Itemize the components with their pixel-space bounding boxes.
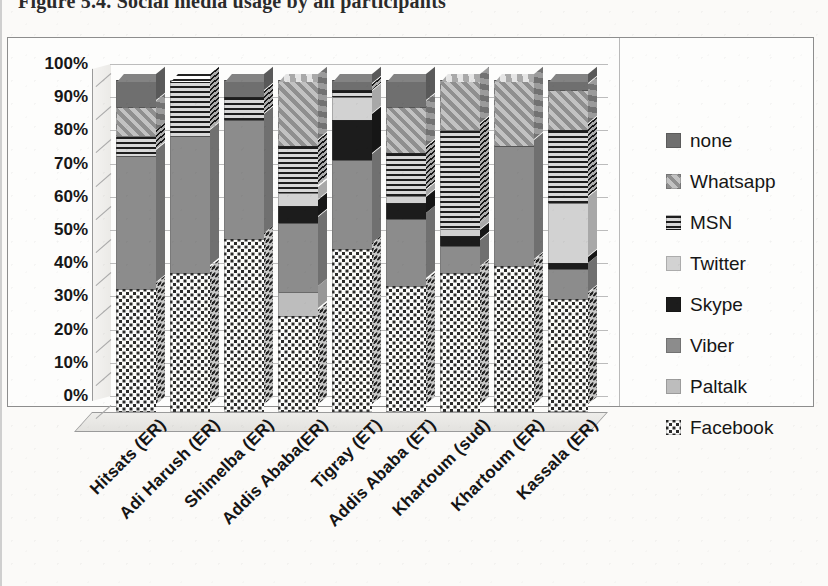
y-axis-tick: 0% — [28, 387, 88, 404]
bar-segment-facebook[interactable] — [440, 273, 480, 412]
legend-item-whatsapp[interactable]: Whatsapp — [666, 161, 816, 202]
legend-swatch-icon — [666, 133, 681, 148]
bar-segment-facebook[interactable] — [494, 266, 534, 412]
bar-segment-viber[interactable] — [224, 120, 264, 240]
bar-segment-viber[interactable] — [332, 160, 372, 250]
plot-area — [110, 64, 608, 412]
bar-segment-msn[interactable] — [116, 136, 156, 156]
stacked-bar[interactable] — [386, 80, 426, 412]
bar-segment-msn[interactable] — [332, 90, 372, 97]
y-axis-tick: 20% — [28, 321, 88, 338]
bar-segment-msn[interactable] — [440, 130, 480, 230]
x-axis-label: Khartoum (sud) — [389, 415, 495, 521]
bar-segment-viber[interactable] — [170, 136, 210, 272]
bar-segment-whatsapp[interactable] — [440, 80, 480, 130]
figure-caption: Figure 5.4. Social media usage by all pa… — [18, 0, 446, 13]
y-axis-tick: 80% — [28, 121, 88, 138]
legend-item-twitter[interactable]: Twitter — [666, 243, 816, 284]
bar-segment-facebook[interactable] — [170, 273, 210, 412]
y-axis-tick: 10% — [28, 354, 88, 371]
legend-item-paltalk[interactable]: Paltalk — [666, 366, 816, 407]
bar-segment-facebook[interactable] — [278, 316, 318, 412]
y-axis-tick: 40% — [28, 254, 88, 271]
bar-segment-none[interactable] — [116, 80, 156, 107]
bar-segment-facebook[interactable] — [116, 289, 156, 412]
bar-segment-whatsapp[interactable] — [278, 80, 318, 146]
stacked-bar[interactable] — [224, 80, 264, 412]
page-edge — [0, 0, 2, 586]
stacked-bar[interactable] — [494, 80, 534, 412]
bar-segment-twitter[interactable] — [440, 229, 480, 236]
y-axis-tick: 50% — [28, 221, 88, 238]
bar-segment-msn[interactable] — [278, 146, 318, 192]
stacked-bar[interactable] — [440, 80, 480, 412]
bar-segment-none[interactable] — [224, 80, 264, 97]
bar-segment-facebook[interactable] — [548, 299, 588, 412]
stacked-bar[interactable] — [170, 80, 210, 412]
bar-segment-skype[interactable] — [278, 206, 318, 223]
y-axis-tick: 70% — [28, 155, 88, 172]
bar-segment-none[interactable] — [332, 80, 372, 90]
legend-label: Paltalk — [690, 377, 747, 396]
legend-label: none — [690, 131, 732, 150]
legend-label: Viber — [690, 336, 734, 355]
legend-swatch-icon — [666, 379, 681, 394]
bar-segment-skype[interactable] — [332, 120, 372, 160]
bar-segment-viber[interactable] — [548, 269, 588, 299]
x-axis-label: Khartoum (ER) — [447, 415, 548, 516]
bar-segment-viber[interactable] — [440, 246, 480, 273]
legend-label: Facebook — [690, 418, 773, 437]
legend-swatch-icon — [666, 215, 681, 230]
legend-item-facebook[interactable]: Facebook — [666, 407, 816, 448]
bar-segment-viber[interactable] — [386, 219, 426, 285]
bar-segment-whatsapp[interactable] — [116, 107, 156, 137]
bar-segment-whatsapp[interactable] — [494, 80, 534, 146]
x-axis-labels: Hitsats (ER)Adi Harush (ER)Shimelba (ER)… — [110, 415, 630, 585]
bar-segment-facebook[interactable] — [386, 286, 426, 412]
y-axis-tick: 100% — [28, 55, 88, 72]
y-axis-tick: 60% — [28, 188, 88, 205]
gridline — [110, 64, 608, 65]
y-axis-tick: 90% — [28, 88, 88, 105]
bar-segment-skype[interactable] — [386, 203, 426, 220]
legend-item-none[interactable]: none — [666, 120, 816, 161]
bar-segment-facebook[interactable] — [224, 239, 264, 412]
legend-divider — [619, 38, 620, 406]
y-axis-tick: 30% — [28, 287, 88, 304]
bar-segment-viber[interactable] — [116, 156, 156, 289]
bar-segment-viber[interactable] — [278, 223, 318, 293]
bar-segment-msn[interactable] — [170, 80, 210, 136]
legend-label: Whatsapp — [690, 172, 776, 191]
bar-segment-skype[interactable] — [440, 236, 480, 246]
bar-segment-twitter[interactable] — [332, 97, 372, 120]
bar-segment-skype[interactable] — [548, 263, 588, 270]
bar-segment-none[interactable] — [548, 80, 588, 90]
bar-segment-twitter[interactable] — [548, 203, 588, 263]
bar-segment-whatsapp[interactable] — [386, 107, 426, 153]
bar-segment-viber[interactable] — [494, 146, 534, 266]
stacked-bar[interactable] — [278, 80, 318, 412]
legend-label: Twitter — [690, 254, 746, 273]
bar-segment-twitter[interactable] — [278, 193, 318, 206]
bar-segment-facebook[interactable] — [332, 249, 372, 412]
legend-swatch-icon — [666, 420, 681, 435]
bar-segment-msn[interactable] — [386, 153, 426, 196]
bar-segment-whatsapp[interactable] — [548, 90, 588, 130]
legend-label: Skype — [690, 295, 743, 314]
legend-swatch-icon — [666, 297, 681, 312]
bar-segment-msn[interactable] — [224, 97, 264, 120]
bar-segment-paltalk[interactable] — [278, 292, 318, 315]
bar-segment-twitter[interactable] — [386, 196, 426, 203]
y-axis: 100%90%80%70%60%50%40%30%20%10%0% — [26, 64, 88, 412]
legend-swatch-icon — [666, 174, 681, 189]
legend-item-viber[interactable]: Viber — [666, 325, 816, 366]
bar-segment-none[interactable] — [386, 80, 426, 107]
legend-item-msn[interactable]: MSN — [666, 202, 816, 243]
legend-item-skype[interactable]: Skype — [666, 284, 816, 325]
legend-swatch-icon — [666, 338, 681, 353]
legend-swatch-icon — [666, 256, 681, 271]
stacked-bar[interactable] — [116, 80, 156, 412]
stacked-bar[interactable] — [548, 80, 588, 412]
bar-segment-msn[interactable] — [548, 130, 588, 203]
stacked-bar[interactable] — [332, 80, 372, 412]
